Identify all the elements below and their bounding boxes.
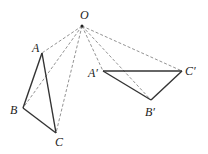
dashed-ray-O-A (42, 26, 82, 53)
dashed-ray-O-B1 (82, 26, 151, 100)
geometry-figure: O A B C A′ B′ C′ (0, 0, 208, 154)
center-point-O (81, 25, 84, 28)
dashed-ray-O-C1 (82, 26, 182, 71)
label-C-prime: C′ (185, 64, 196, 78)
point-labels: O A B C A′ B′ C′ (10, 8, 196, 149)
dashed-ray-O-B (23, 26, 82, 108)
label-B: B (10, 103, 18, 117)
triangle-edges (23, 53, 182, 133)
label-A: A (31, 41, 40, 55)
edge-A-B (23, 53, 42, 108)
label-A-prime: A′ (87, 66, 98, 80)
label-C: C (55, 135, 64, 149)
edge-C-A (42, 53, 56, 133)
label-O: O (80, 8, 89, 22)
dashed-ray-O-A1 (82, 26, 103, 71)
point-markers (81, 25, 84, 28)
edge-B1-C1 (151, 71, 182, 100)
edge-A1-B1 (103, 71, 151, 100)
dashed-ray-O-C (56, 26, 82, 133)
label-B-prime: B′ (145, 105, 155, 119)
edge-B-C (23, 108, 56, 133)
